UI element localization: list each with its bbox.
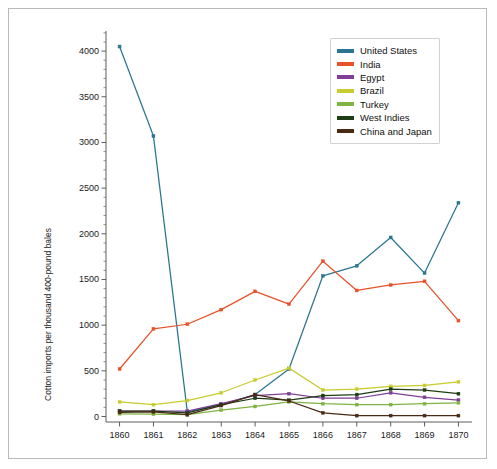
series-point: [152, 403, 155, 406]
series-point: [254, 378, 257, 381]
series-point: [254, 393, 257, 396]
series-point: [389, 403, 392, 406]
series-point: [220, 409, 223, 412]
series-point: [355, 264, 358, 267]
series-point: [457, 380, 460, 383]
y-tick-label: 1000: [65, 320, 99, 330]
series-point: [355, 289, 358, 292]
legend-item[interactable]: India: [337, 57, 432, 70]
series-point: [321, 402, 324, 405]
series-point: [355, 393, 358, 396]
series-point: [389, 236, 392, 239]
series-point: [288, 392, 291, 395]
series-point: [355, 414, 358, 417]
series-point: [288, 367, 291, 370]
y-axis-title: Cotton imports per thousand 400-pound ba…: [43, 228, 53, 401]
y-tick-label: 2000: [65, 229, 99, 239]
legend-item-label: India: [360, 59, 381, 70]
y-tick-label: 3500: [65, 92, 99, 102]
legend-swatch-icon: [337, 62, 354, 66]
series-point: [423, 280, 426, 283]
series-point: [254, 405, 257, 408]
series-point: [355, 403, 358, 406]
legend-item[interactable]: Brazil: [337, 84, 432, 97]
series-point: [186, 399, 189, 402]
y-tick-label: 3000: [65, 137, 99, 147]
series-point: [457, 414, 460, 417]
y-tick-label: 500: [65, 366, 99, 376]
series-point: [321, 389, 324, 392]
series-point: [423, 396, 426, 399]
chart-legend: United StatesIndiaEgyptBrazilTurkeyWest …: [330, 38, 440, 144]
legend-swatch-icon: [337, 129, 354, 133]
series-point: [423, 272, 426, 275]
legend-item[interactable]: Turkey: [337, 98, 432, 111]
series-point: [186, 323, 189, 326]
series-point: [355, 397, 358, 400]
y-tick-label: 1500: [65, 274, 99, 284]
y-tick-label: 2500: [65, 183, 99, 193]
series-point: [152, 327, 155, 330]
x-tick-label: 1870: [438, 430, 478, 440]
legend-swatch-icon: [337, 116, 354, 120]
series-point: [152, 410, 155, 413]
figure-frame: Cotton imports per thousand 400-pound ba…: [8, 8, 487, 459]
series-point: [118, 45, 121, 48]
legend-swatch-icon: [337, 49, 354, 53]
series-point: [457, 201, 460, 204]
legend-item-label: Brazil: [360, 85, 384, 96]
legend-item[interactable]: West Indies: [337, 111, 432, 124]
legend-swatch-icon: [337, 89, 354, 93]
series-point: [220, 391, 223, 394]
series-point: [389, 283, 392, 286]
series-point: [457, 392, 460, 395]
legend-swatch-icon: [337, 102, 354, 106]
series-point: [220, 404, 223, 407]
legend-item-label: Egypt: [360, 72, 384, 83]
series-point: [321, 411, 324, 414]
series-point: [423, 402, 426, 405]
legend-item-label: West Indies: [360, 112, 409, 123]
series-point: [220, 308, 223, 311]
series-point: [288, 303, 291, 306]
legend-item[interactable]: Egypt: [337, 71, 432, 84]
series-point: [254, 397, 257, 400]
series-point: [423, 414, 426, 417]
series-point: [254, 290, 257, 293]
series-point: [186, 413, 189, 416]
legend-swatch-icon: [337, 75, 354, 79]
series-point: [118, 400, 121, 403]
series-point: [457, 401, 460, 404]
legend-item[interactable]: United States: [337, 44, 432, 57]
series-point: [321, 274, 324, 277]
series-point: [389, 388, 392, 391]
series-point: [288, 399, 291, 402]
series-point: [389, 391, 392, 394]
series-point: [118, 411, 121, 414]
series-point: [321, 394, 324, 397]
y-tick-label: 0: [65, 412, 99, 422]
series-point: [355, 388, 358, 391]
series-point: [118, 368, 121, 371]
series-point: [423, 384, 426, 387]
y-tick-label: 4000: [65, 46, 99, 56]
chart-figure: Cotton imports per thousand 400-pound ba…: [9, 9, 488, 460]
series-point: [423, 389, 426, 392]
series-point: [321, 260, 324, 263]
series-point: [152, 135, 155, 138]
series-point: [389, 414, 392, 417]
series-point: [457, 319, 460, 322]
legend-item-label: United States: [360, 45, 417, 56]
legend-item-label: Turkey: [360, 99, 389, 110]
legend-item-label: China and Japan: [360, 126, 432, 137]
legend-item[interactable]: China and Japan: [337, 124, 432, 137]
